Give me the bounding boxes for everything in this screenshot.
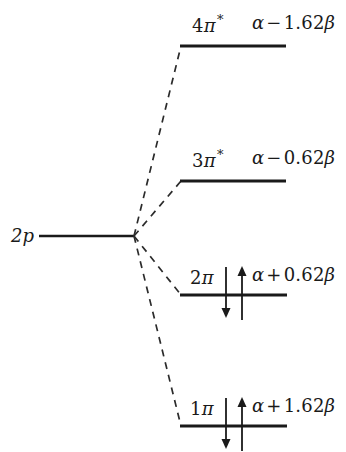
mo-label-2pi: 2π — [190, 266, 214, 287]
electron-arrow-down-2pi — [222, 267, 231, 318]
energy-operator-3: − — [264, 147, 283, 168]
antibonding-star-3: * — [217, 147, 224, 162]
mo-symbol-pi-1: π — [202, 398, 214, 419]
beta-symbol-1: β — [325, 395, 336, 416]
mo-diagram-canvas — [0, 0, 346, 452]
beta-symbol-4: β — [325, 12, 336, 33]
mo-symbol-pi-2: π — [202, 267, 214, 288]
alpha-symbol-3: α — [252, 147, 264, 168]
beta-symbol-3: β — [325, 147, 336, 168]
energy-label-3pi-star: α−0.62β — [252, 149, 335, 167]
mo-number-1: 1 — [190, 398, 202, 419]
electron-arrow-up-1pi — [238, 397, 247, 451]
mo-symbol-pi-4: π — [204, 15, 216, 36]
correlation-line-1pi — [134, 236, 181, 426]
energy-coefficient-2: 0.62 — [284, 264, 325, 285]
mo-label-1pi: 1π — [190, 397, 214, 418]
mo-label-3pi-star: 3π* — [192, 149, 223, 170]
beta-symbol-2: β — [325, 264, 336, 285]
mo-symbol-pi-3: π — [204, 150, 216, 171]
alpha-symbol-2: α — [252, 264, 264, 285]
energy-operator-4: − — [264, 12, 283, 33]
energy-coefficient-1: 1.62 — [284, 395, 325, 416]
electron-arrow-down-1pi — [222, 398, 231, 449]
antibonding-star-4: * — [217, 12, 224, 27]
electron-arrow-up-2pi — [238, 266, 247, 320]
mo-diagram-page: 2p 4π* α−1.62β 3π* α−0.62β 2π α+0.62β 1π… — [0, 0, 346, 452]
energy-coefficient-3: 0.62 — [284, 147, 325, 168]
energy-operator-2: + — [264, 264, 283, 285]
energy-label-4pi-star: α−1.62β — [252, 14, 335, 32]
alpha-symbol-4: α — [252, 12, 264, 33]
mo-number-2: 2 — [190, 267, 202, 288]
energy-operator-1: + — [264, 395, 283, 416]
energy-coefficient-4: 1.62 — [284, 12, 325, 33]
energy-label-2pi: α+0.62β — [252, 266, 335, 284]
mo-number-3: 3 — [192, 150, 204, 171]
energy-label-1pi: α+1.62β — [252, 397, 335, 415]
mo-number-4: 4 — [192, 15, 204, 36]
alpha-symbol-1: α — [252, 395, 264, 416]
atomic-orbital-label-2p: 2p — [11, 227, 34, 245]
correlation-line-4pi-star — [134, 46, 181, 236]
mo-label-4pi-star: 4π* — [192, 14, 223, 35]
